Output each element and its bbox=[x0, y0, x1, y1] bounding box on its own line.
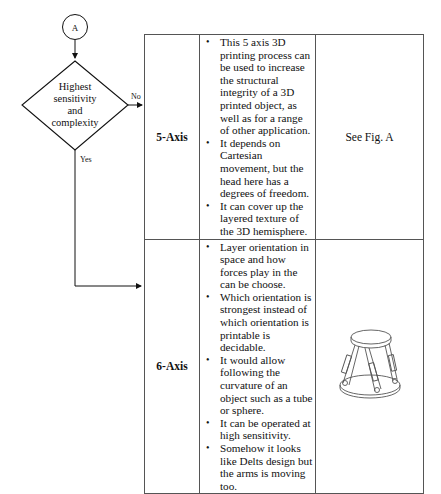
list-item: This 5 axis 3D printing process can be u… bbox=[220, 36, 313, 137]
svg-text:A: A bbox=[72, 23, 79, 33]
yes-label: Yes bbox=[80, 155, 92, 164]
svg-text:and: and bbox=[67, 105, 83, 116]
yes-arrow bbox=[75, 150, 141, 286]
row-name: 5-Axis bbox=[145, 35, 200, 240]
row-name: 6-Axis bbox=[145, 239, 200, 494]
axis-comparison-table: 5-Axis This 5 axis 3D printing process c… bbox=[144, 34, 424, 494]
list-item: It depends on Cartesian movement, but th… bbox=[220, 137, 313, 200]
no-label: No bbox=[131, 92, 141, 101]
list-item: Which orientation is strongest instead o… bbox=[220, 291, 313, 354]
svg-text:complexity: complexity bbox=[51, 117, 99, 128]
list-item: Somehow it looks like Delts design but t… bbox=[220, 442, 313, 492]
list-item: It can be operated at high sensitivity. bbox=[220, 417, 313, 442]
svg-text:sensitivity: sensitivity bbox=[53, 93, 97, 104]
table-row: 6-Axis Layer orientation in space and ho… bbox=[145, 239, 424, 494]
decision-diamond: Highest sensitivity and complexity bbox=[22, 61, 128, 150]
bullet-list: This 5 axis 3D printing process can be u… bbox=[200, 35, 315, 239]
list-item: It can cover up the layered texture of t… bbox=[220, 200, 313, 238]
list-item: Layer orientation in space and how force… bbox=[220, 241, 313, 291]
svg-text:Highest: Highest bbox=[59, 81, 92, 92]
table-row: 5-Axis This 5 axis 3D printing process c… bbox=[145, 35, 424, 240]
list-item: It would allow following the curvature o… bbox=[220, 354, 313, 417]
bullet-list: Layer orientation in space and how force… bbox=[200, 240, 315, 494]
connector-a: A bbox=[63, 15, 88, 40]
hexapod-illustration-icon bbox=[335, 325, 405, 405]
figure-reference: See Fig. A bbox=[316, 35, 424, 240]
